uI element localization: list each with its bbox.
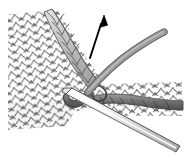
knitting-illustration: Knitted stockinette fabric with a needle… xyxy=(0,0,189,162)
illustration-canvas xyxy=(0,0,189,162)
